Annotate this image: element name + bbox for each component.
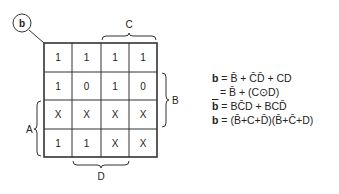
kmap-cell: 1 — [140, 52, 146, 63]
kmap-cell: 1 — [55, 138, 61, 149]
kmap-cell: 1 — [112, 81, 118, 92]
kmap-cell: X — [112, 109, 119, 120]
kmap-cell: X — [140, 109, 147, 120]
kmap-cell: X — [83, 109, 90, 120]
karnaugh-map: b 11111010XXXX11XX C B A D — [0, 0, 339, 194]
c-label: C — [125, 19, 132, 30]
a-bracket — [34, 101, 41, 156]
kmap-cell: X — [55, 109, 62, 120]
kmap-cell: 1 — [84, 138, 90, 149]
equation-rhs: = B̄ + (C⊙D) — [220, 86, 279, 98]
equation-line: b = (B̄+C+D̄)(B̄+C̄+D) — [212, 113, 313, 127]
kmap-cell: 0 — [140, 81, 146, 92]
equation-rhs: = (B̄+C+D̄)(B̄+C̄+D) — [218, 114, 313, 126]
equation-line: = B̄ + (C⊙D) — [220, 85, 279, 99]
d-label: D — [97, 171, 104, 182]
a-label: A — [26, 124, 33, 135]
equation-rhs: = B̄ + C̄D̄ + CD — [218, 72, 291, 84]
kmap-cell: 1 — [112, 52, 118, 63]
equation-line: b = BC̄D + BCD̄ — [212, 99, 287, 113]
kmap-cell: X — [112, 138, 119, 149]
kmap-cell: 1 — [55, 52, 61, 63]
segment-label-text: b — [19, 18, 25, 29]
c-bracket — [102, 33, 156, 40]
kmap-cell: 1 — [84, 52, 90, 63]
segment-label: b — [13, 14, 44, 43]
kmap-cell: 1 — [55, 81, 61, 92]
equation-rhs: = BC̄D + BCD̄ — [218, 100, 286, 112]
b-label: B — [172, 95, 179, 106]
b-bracket — [162, 73, 169, 127]
kmap-cell: X — [140, 138, 147, 149]
kmap-cell: 0 — [84, 81, 90, 92]
equation-line: b = B̄ + C̄D̄ + CD — [212, 71, 292, 85]
d-bracket — [73, 161, 129, 168]
